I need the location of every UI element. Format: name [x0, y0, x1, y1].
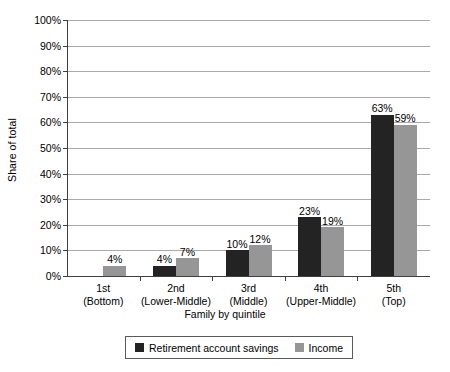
y-tick-mark — [63, 199, 67, 200]
y-tick-mark — [63, 250, 67, 251]
y-tick-label: 80% — [40, 66, 61, 77]
y-tick-label: 0% — [46, 271, 61, 282]
bar: 7% — [176, 258, 199, 276]
y-tick-mark — [63, 46, 67, 47]
legend-swatch-retirement — [135, 343, 144, 352]
y-tick-mark — [63, 97, 67, 98]
y-tick-label: 90% — [40, 40, 61, 51]
y-tick-mark — [63, 71, 67, 72]
legend: Retirement account savings Income — [125, 336, 353, 359]
gridline — [68, 20, 430, 21]
y-tick-label: 10% — [40, 245, 61, 256]
legend-item: Income — [295, 342, 343, 354]
bar-value-label: 12% — [249, 234, 270, 245]
bar: 12% — [249, 245, 272, 276]
bar-value-label: 63% — [372, 103, 393, 114]
legend-label-income: Income — [309, 342, 343, 354]
bar-value-label: 7% — [180, 247, 195, 258]
category-label-line1: 5th — [334, 282, 450, 295]
gridline — [68, 71, 430, 72]
x-category-label: 5th(Top) — [334, 282, 450, 308]
bar-value-label: 23% — [299, 206, 320, 217]
x-tick-mark — [285, 276, 286, 281]
bar: 23% — [298, 217, 321, 276]
y-tick-label: 70% — [40, 92, 61, 103]
y-tick-mark — [63, 122, 67, 123]
bar: 59% — [394, 125, 417, 276]
y-tick-mark — [63, 148, 67, 149]
bar: 4% — [103, 266, 126, 276]
x-axis-line — [67, 276, 430, 277]
bar: 10% — [226, 250, 249, 276]
y-tick-label: 100% — [34, 15, 61, 26]
bar-value-label: 59% — [395, 113, 416, 124]
y-tick-mark — [63, 20, 67, 21]
y-tick-label: 30% — [40, 194, 61, 205]
plot-area: 0%10%20%30%40%50%60%70%80%90%100% 4%4%7%… — [67, 20, 430, 277]
y-tick-mark — [63, 276, 67, 277]
bar-value-label: 10% — [226, 239, 247, 250]
x-axis-title: Family by quintile — [0, 308, 450, 320]
x-tick-mark — [357, 276, 358, 281]
y-tick-label: 20% — [40, 220, 61, 231]
y-tick-label: 40% — [40, 168, 61, 179]
category-label-line2: (Top) — [334, 295, 450, 308]
bar-value-label: 19% — [322, 216, 343, 227]
bar-value-label: 4% — [107, 254, 122, 265]
y-tick-mark — [63, 174, 67, 175]
bar: 63% — [371, 115, 394, 276]
gridline — [68, 97, 430, 98]
x-tick-mark — [140, 276, 141, 281]
x-tick-mark — [212, 276, 213, 281]
legend-swatch-income — [295, 343, 304, 352]
bar: 4% — [153, 266, 176, 276]
y-tick-label: 60% — [40, 117, 61, 128]
gridline — [68, 46, 430, 47]
legend-item: Retirement account savings — [135, 342, 279, 354]
y-tick-label: 50% — [40, 143, 61, 154]
bar-value-label: 4% — [157, 254, 172, 265]
bar: 19% — [321, 227, 344, 276]
y-axis-title: Share of total — [6, 50, 20, 250]
legend-label-retirement: Retirement account savings — [149, 342, 279, 354]
bar-chart: Share of total 0%10%20%30%40%50%60%70%80… — [0, 0, 450, 372]
y-tick-mark — [63, 225, 67, 226]
